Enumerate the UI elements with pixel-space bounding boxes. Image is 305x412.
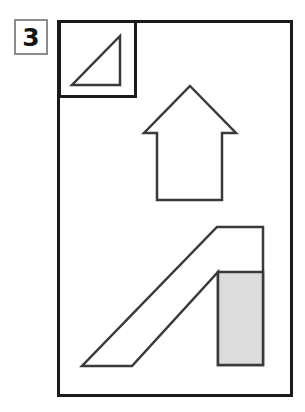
figure-label-text: 3 — [22, 25, 39, 50]
figure-vector-drawing — [0, 0, 305, 412]
shaded-rectangle-shape — [218, 272, 263, 365]
figure-canvas — [0, 0, 305, 412]
figure-illustration: 3 — [0, 0, 305, 412]
figure-label-box: 3 — [14, 19, 48, 55]
